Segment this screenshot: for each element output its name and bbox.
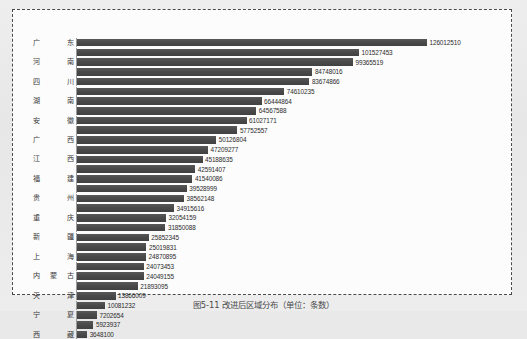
bar-row: 57752557	[33, 126, 495, 135]
bar	[77, 243, 146, 251]
bar-row: 福建41540086	[33, 174, 495, 183]
bar-track: 5923937	[76, 320, 495, 329]
bar-row: 31850088	[33, 223, 495, 232]
bar-track: 39528999	[76, 184, 495, 193]
bar	[77, 117, 247, 125]
bar-track: 42591407	[76, 165, 495, 174]
bar-value-label: 50126804	[216, 136, 246, 143]
bar-category-label: 河南	[33, 58, 76, 66]
bar-value-label: 32054159	[166, 214, 196, 221]
bar-value-label: 83674866	[309, 78, 339, 85]
bar-category-label: 广西	[33, 136, 76, 144]
bar-row: 天津13866009	[33, 291, 495, 300]
bar-row: 西藏3648100	[33, 330, 495, 339]
bar-row: 25019831	[33, 242, 495, 251]
bar-track: 7202654	[76, 311, 495, 320]
bar-track: 57752557	[76, 126, 495, 135]
bar-track: 45188635	[76, 155, 495, 164]
bar-value-label: 25019831	[146, 244, 176, 251]
bar	[77, 253, 146, 261]
bar-category-label: 新疆	[33, 233, 76, 241]
bar-track: 25852345	[76, 233, 495, 242]
bar	[77, 331, 87, 339]
bar-row: 47209277	[33, 145, 495, 154]
bar-row: 84748016	[33, 67, 495, 76]
bar-value-label: 3648100	[87, 331, 114, 338]
bar	[77, 107, 256, 115]
bar-value-label: 31850088	[165, 224, 195, 231]
bar-row: 39528999	[33, 184, 495, 193]
bar-row: 21893095	[33, 281, 495, 290]
bar-chart: 广东126012510101527453河南9936551984748016四川…	[33, 38, 495, 282]
bar	[77, 311, 97, 319]
bar	[77, 39, 427, 47]
bar-category-label: 重庆	[33, 214, 76, 222]
bar-track: 99365519	[76, 57, 495, 66]
bar-value-label: 57752557	[237, 127, 267, 134]
bar	[77, 195, 184, 203]
bar	[77, 97, 262, 105]
bar-row: 64567588	[33, 106, 495, 115]
bar	[77, 165, 195, 173]
bar-track: 126012510	[76, 38, 495, 47]
bar-track: 101527453	[76, 48, 495, 57]
bar-value-label: 126012510	[427, 39, 461, 46]
bar-category-label: 上海	[33, 253, 76, 261]
bar-value-label: 24049155	[144, 273, 174, 280]
bar	[77, 156, 203, 164]
bar-value-label: 21893095	[138, 283, 168, 290]
bar-value-label: 41540086	[192, 175, 222, 182]
bar	[77, 214, 166, 222]
bar-row: 42591407	[33, 165, 495, 174]
bar-value-label: 25852345	[149, 234, 179, 241]
bar-track: 34915616	[76, 203, 495, 212]
bar-category-label: 西藏	[33, 331, 76, 339]
bar-value-label: 47209277	[208, 146, 238, 153]
bar-track: 47209277	[76, 145, 495, 154]
bar-category-label: 安徽	[33, 117, 76, 125]
bar-value-label: 38562148	[184, 195, 214, 202]
bar-category-label: 广东	[33, 39, 76, 47]
bar-row: 河南99365519	[33, 57, 495, 66]
bar-value-label: 61027171	[247, 117, 277, 124]
bar-track: 24049155	[76, 272, 495, 281]
bar	[77, 68, 312, 76]
bar-row: 101527453	[33, 48, 495, 57]
bar-value-label: 101527453	[359, 49, 393, 56]
bar-row: 安徽61027171	[33, 116, 495, 125]
bar	[77, 126, 237, 134]
bar-value-label: 39528999	[187, 185, 217, 192]
bar-value-label: 74610235	[284, 88, 314, 95]
bar-category-label: 天津	[33, 292, 76, 300]
bar	[77, 146, 208, 154]
bar-row: 江西45188635	[33, 155, 495, 164]
bar-value-label: 45188635	[203, 156, 233, 163]
bar-value-label: 5923937	[93, 321, 120, 328]
bar-value-label: 34915616	[174, 205, 204, 212]
bar-row: 74610235	[33, 87, 495, 96]
bar-row: 湖南66444864	[33, 96, 495, 105]
bar-value-label: 24073453	[144, 263, 174, 270]
bar-row: 新疆25852345	[33, 233, 495, 242]
bar	[77, 224, 165, 232]
bar-value-label: 66444864	[262, 98, 292, 105]
bar	[77, 204, 174, 212]
bar-track: 84748016	[76, 67, 495, 76]
bar-category-label: 四川	[33, 78, 76, 86]
bar-track: 24073453	[76, 262, 495, 271]
bar-category-label: 贵州	[33, 194, 76, 202]
bar-track: 66444864	[76, 96, 495, 105]
bar	[77, 78, 309, 86]
bar	[77, 292, 116, 300]
bar-value-label: 99365519	[353, 59, 383, 66]
bar-track: 13866009	[76, 291, 495, 300]
bar-value-label: 84748016	[312, 68, 342, 75]
bar-row: 四川83674866	[33, 77, 495, 86]
bar-track: 3648100	[76, 330, 495, 339]
bar	[77, 49, 359, 57]
bar-value-label: 13866009	[116, 292, 146, 299]
bar-row: 广东126012510	[33, 38, 495, 47]
bar	[77, 175, 192, 183]
bar-track: 41540086	[76, 174, 495, 183]
